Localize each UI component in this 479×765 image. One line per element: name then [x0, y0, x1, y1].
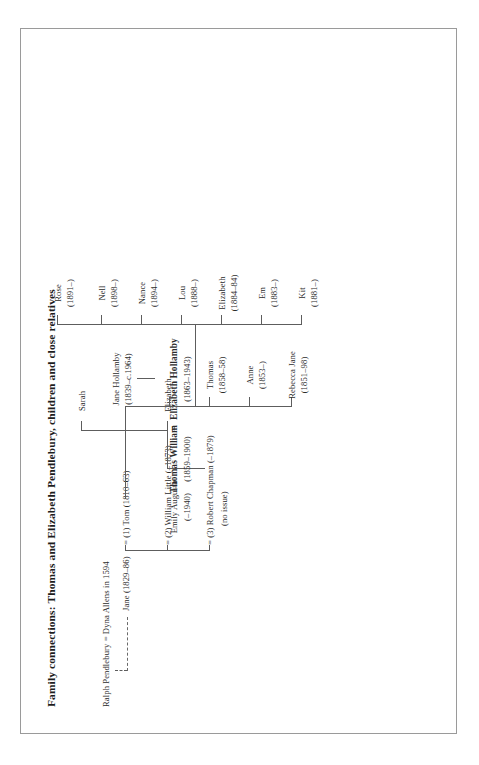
sarah-tick: [81, 421, 82, 431]
grandchild-nance-name: Nance: [137, 282, 147, 304]
little-sibling-bar: [81, 430, 167, 431]
little-child-sarah: Sarah: [77, 391, 87, 411]
grandchild-rose-name: Rose: [53, 284, 63, 302]
wife-dates-elizabeth-hollamby: (1863–1943): [182, 356, 192, 402]
page-border: Family connections: Thomas and Elizabeth…: [20, 28, 457, 734]
grandchild-lou-dates: (1888–): [189, 279, 199, 307]
grandchild-kit-tick: [301, 315, 302, 325]
grandchild-elizabeth-tick: [221, 315, 222, 325]
family-tree-canvas: Family connections: Thomas and Elizabeth…: [23, 31, 455, 731]
tom-jane-sibling-bar: [125, 406, 291, 407]
grandchild-nell-tick: [101, 315, 102, 325]
child-emily-augusta-tick: [169, 397, 170, 407]
grandchild-lou-name: Lou: [177, 286, 187, 300]
child-anne-name: Anne: [245, 365, 255, 384]
child-anne-tick: [249, 397, 250, 407]
grandchild-elizabeth-name: Elizabeth: [217, 276, 227, 309]
grandchild-kit-dates: (1881–): [309, 279, 319, 307]
child-rebecca-jane-dates: (1851–98): [299, 357, 309, 394]
child-thomas-tick: [209, 397, 210, 407]
grandchild-lou-tick: [181, 315, 182, 325]
jane-marriage-3-tick: [209, 545, 210, 551]
jane-marriage-3-label: = (3) Robert Chapman (–1879): [205, 435, 215, 545]
root-ancestor-label: Ralph Pendlebury = Dyna Allens in 1594: [101, 561, 111, 707]
husband-dates-thomas-william: (1859–1900): [182, 436, 192, 482]
grandchild-rose-tick: [57, 315, 58, 325]
elizabeth-little-tick: [167, 421, 168, 431]
jane-hollamby-dates: (1839–c.1964): [123, 353, 133, 405]
jane-marriage-2-tick: [167, 545, 168, 551]
grandchild-em-tick: [261, 315, 262, 325]
grandchild-nell-name: Nell: [97, 285, 107, 300]
jane-hollamby-name: Jane Hollamby: [111, 352, 121, 405]
grandchildren-sibling-bar: [57, 324, 301, 325]
root-to-jane-connector: [127, 617, 128, 671]
grandchildren-descent-lead: [195, 325, 196, 407]
grandchild-rose-dates: (1891–): [65, 279, 75, 307]
jane-marriage-3-note: (no issue): [219, 491, 229, 526]
grandchild-nell-dates: (1898–): [109, 279, 119, 307]
grandchild-em-name: Em: [257, 287, 267, 299]
tom-jane-descent-lead: [125, 407, 126, 499]
grandchild-em-dates: (1883–): [269, 279, 279, 307]
grandchild-kit-name: Kit: [297, 287, 307, 298]
child-anne-dates: (1853–): [257, 361, 267, 389]
page-title: Family connections: Thomas and Elizabeth…: [45, 289, 57, 707]
wife-name-elizabeth-hollamby: Elizabeth Hollamby: [169, 338, 180, 420]
child-thomas-dates: (1858–58): [217, 357, 227, 394]
grandchild-nance-dates: (1894–): [149, 279, 159, 307]
child-emily-augusta-name: Emily Augusta: [169, 481, 179, 534]
grandchild-elizabeth-dates: (1884–84): [229, 275, 239, 312]
root-descent-connector: [115, 670, 127, 671]
jane-hollamby-descent: [137, 378, 155, 379]
jane-marriage-1-tick: [125, 545, 126, 551]
child-emily-augusta-dates: (–1940): [182, 493, 192, 521]
child-thomas-name: Thomas: [205, 361, 215, 389]
little-parent-to-siblings: [167, 431, 168, 469]
grandchild-nance-tick: [141, 315, 142, 325]
child-rebecca-jane-name: Rebecca Jane: [287, 351, 297, 399]
jane-label: Jane (1829–86): [121, 556, 131, 611]
